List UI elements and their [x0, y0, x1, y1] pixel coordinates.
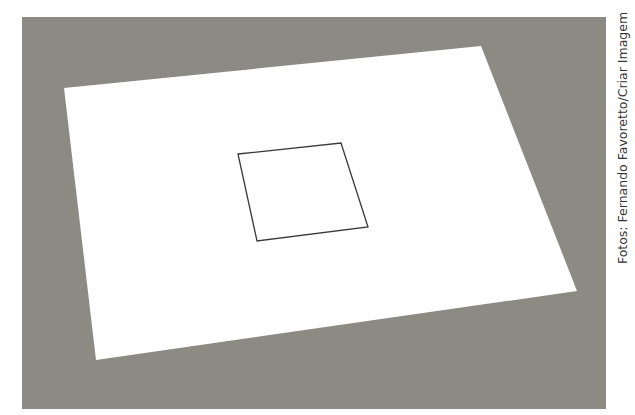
photo-scene	[0, 0, 635, 415]
paper-sheet	[64, 46, 577, 360]
photo-credit: Fotos: Fernando Favoretto/Criar Imagem	[615, 12, 630, 264]
